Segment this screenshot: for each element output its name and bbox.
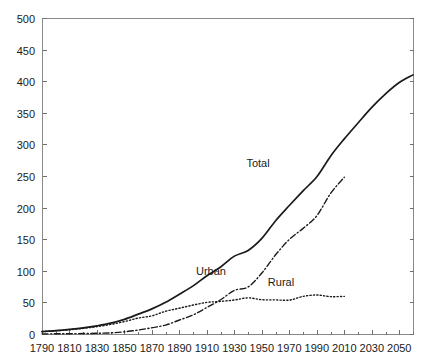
y-axis-tick-label: 250: [17, 171, 35, 183]
y-axis-ticks: [43, 19, 414, 335]
series-line-total: [42, 75, 413, 332]
x-axis-tick-label: 1990: [305, 342, 329, 354]
x-axis-tick-label: 1810: [57, 342, 81, 354]
x-axis-tick-label: 1870: [140, 342, 164, 354]
y-axis-tick-label: 200: [17, 203, 35, 215]
y-axis-tick-label: 350: [17, 108, 35, 120]
y-axis-tick-label: 100: [17, 266, 35, 278]
series-label-rural: Rural: [268, 276, 294, 288]
series-line-rural: [42, 295, 344, 332]
x-axis-tick-label: 2030: [360, 342, 384, 354]
x-axis-ticks: [43, 330, 414, 335]
y-axis-tick-label: 150: [17, 234, 35, 246]
series-label-total: Total: [246, 157, 269, 169]
x-axis-tick-label: 2010: [332, 342, 356, 354]
y-axis-tick-label: 450: [17, 45, 35, 57]
y-axis-tick-label: 400: [17, 76, 35, 88]
chart-container: 050100150200250300350400450500 179018101…: [0, 0, 425, 363]
y-axis-tick-label: 50: [23, 297, 35, 309]
x-axis-tick-label: 1910: [195, 342, 219, 354]
chart-series-lines: [42, 75, 413, 334]
x-axis-tick-label: 1950: [250, 342, 274, 354]
y-axis-tick-label: 300: [17, 139, 35, 151]
population-line-chart: 050100150200250300350400450500 179018101…: [0, 0, 425, 363]
x-axis-tick-label: 1790: [30, 342, 54, 354]
x-axis-tick-labels: 1790181018301850187018901910193019501970…: [30, 342, 412, 354]
x-axis-tick-label: 1970: [277, 342, 301, 354]
series-line-urban: [42, 177, 344, 334]
y-axis-tick-label: 500: [17, 13, 35, 25]
y-axis-tick-label: 0: [29, 329, 35, 341]
x-axis-tick-label: 2050: [387, 342, 411, 354]
x-axis-tick-label: 1890: [167, 342, 191, 354]
series-label-urban: Urban: [196, 265, 226, 277]
x-axis-tick-label: 1830: [85, 342, 109, 354]
x-axis-tick-label: 1850: [112, 342, 136, 354]
series-inline-labels: TotalUrbanRural: [196, 157, 294, 288]
chart-axes: [43, 19, 414, 335]
y-axis-tick-labels: 050100150200250300350400450500: [17, 13, 35, 341]
x-axis-tick-label: 1930: [222, 342, 246, 354]
